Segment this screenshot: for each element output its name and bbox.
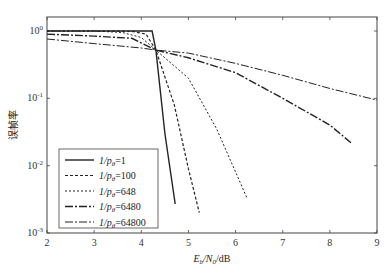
x-tick-label: 7	[280, 237, 285, 248]
x-tick-label: 9	[375, 237, 380, 248]
y-tick-label: 10-2	[27, 159, 43, 171]
x-axis-label: Eb/N0/dB	[192, 253, 230, 266]
x-tick-label: 6	[233, 237, 238, 248]
series-line-4	[47, 39, 377, 100]
y-tick-label: 10-1	[27, 91, 43, 103]
x-tick-label: 2	[45, 237, 50, 248]
x-tick-label: 3	[92, 237, 97, 248]
y-axis-label: 误帧率	[7, 110, 19, 140]
y-tick-label: 10-3	[27, 226, 43, 238]
legend: 1/pθ=11/pθ=1001/pθ=6481/pθ=64801/pθ=6480…	[59, 149, 158, 230]
x-tick-label: 5	[186, 237, 191, 248]
series-line-3	[47, 34, 353, 144]
x-tick-label: 8	[327, 237, 332, 248]
y-tick-label: 100	[30, 24, 44, 36]
x-tick-label: 4	[139, 237, 144, 248]
chart: 2345678910010-110-210-3 1/pθ=11/pθ=1001/…	[0, 0, 391, 276]
